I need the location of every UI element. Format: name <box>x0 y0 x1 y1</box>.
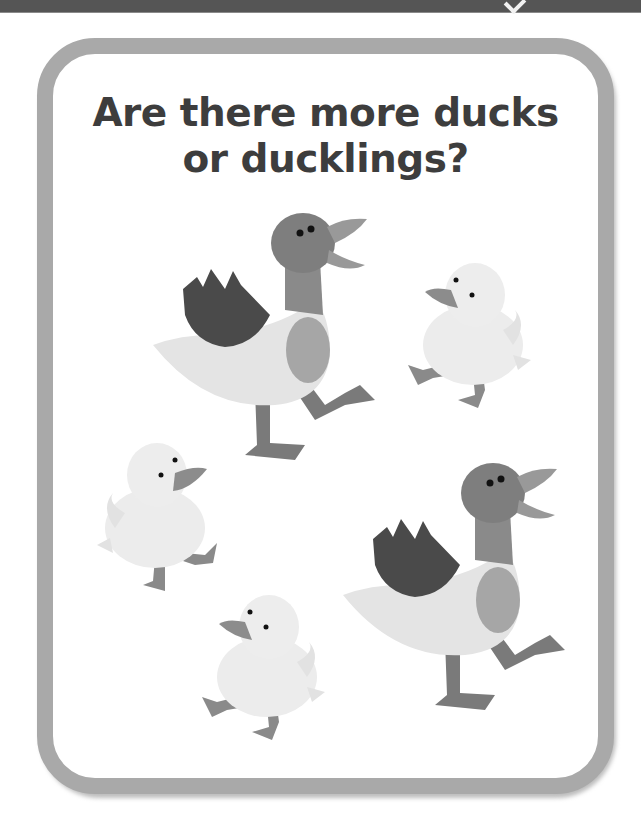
question-line-1: Are there more ducks <box>53 90 598 136</box>
duckling-icon <box>403 250 533 415</box>
duckling-icon <box>197 582 327 747</box>
duck-icon <box>335 455 575 720</box>
duckling-icon <box>95 433 225 598</box>
duck-2 <box>335 455 575 720</box>
checkmark-icon <box>504 0 527 14</box>
top-bar <box>0 0 641 13</box>
duck-1 <box>145 205 385 470</box>
duckling-1 <box>403 250 533 415</box>
duck-icon <box>145 205 385 470</box>
question-title: Are there more ducks or ducklings? <box>53 90 598 182</box>
question-line-2: or ducklings? <box>53 136 598 182</box>
duckling-3 <box>197 582 327 747</box>
duckling-2 <box>95 433 225 598</box>
